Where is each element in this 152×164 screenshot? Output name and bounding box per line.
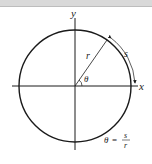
arc-label: s (124, 48, 128, 59)
angle-arc (79, 80, 82, 86)
radius-line (75, 40, 107, 86)
angle-label: θ (84, 74, 89, 84)
x-axis-label: x (138, 80, 144, 92)
y-axis-label: y (70, 7, 76, 19)
radius-label: r (86, 50, 90, 61)
formula-theta: θ (104, 135, 109, 145)
formula-numerator: s (124, 131, 127, 140)
formula-equals: = (112, 135, 117, 145)
unit-circle-diagram: y x r s θ θ = s r (0, 0, 152, 164)
formula-denominator: r (124, 141, 128, 150)
arc-length-arrow (111, 38, 135, 83)
